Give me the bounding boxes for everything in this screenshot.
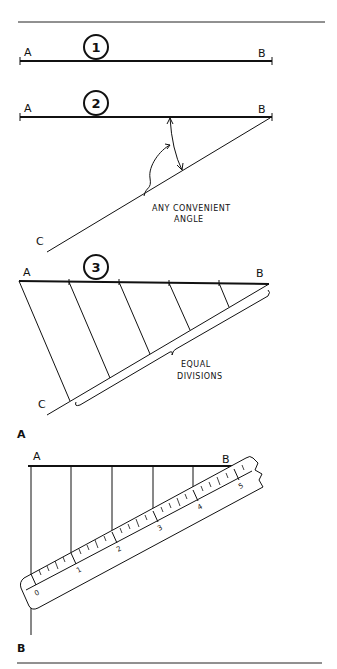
step-number: 2 [91,96,100,111]
point-label-b: B [258,47,266,60]
point-label-c: C [36,235,44,248]
annotation-line-2: ANGLE [174,215,204,224]
projection-line [219,283,229,307]
point-label-a: A [24,102,32,115]
annotation-line-2: DIVISIONS [177,372,223,381]
point-label-b: B [258,103,266,116]
point-label-a: A [24,46,32,59]
projection-line [119,282,150,354]
angle-arc [170,118,182,170]
step-2: 2 A B C ANY CONVENIENT ANGLE [20,91,272,252]
step-number: 3 [91,260,100,275]
leader-line [144,145,170,196]
projection-line [169,283,190,330]
point-label-b: B [222,453,230,466]
point-label-a: A [33,450,41,463]
projection-line [19,281,70,401]
annotation-line-1: ANY CONVENIENT [152,204,231,213]
step-3: 3 A B C EQUAL DIVISIONS [19,255,270,415]
annotation-line-1: EQUAL [181,360,211,369]
line-bc [47,284,269,415]
line-division-diagram: 1 A B 2 A B C ANY CONVENIENT ANGLE 3 A B… [0,0,337,669]
panel-label-a: A [17,428,26,441]
step-1: 1 A B [20,35,272,65]
step-number: 1 [91,40,100,55]
point-label-b: B [256,267,264,280]
scale-ruler: 0 1 2 3 4 5 [20,457,263,610]
line-bc [47,118,270,252]
scale-method: A B [20,450,263,635]
projection-line [69,282,110,378]
equal-divisions-brace [76,290,270,406]
line-ab [19,281,269,284]
point-label-a: A [23,266,31,279]
point-label-c: C [38,398,46,411]
panel-label-b: B [17,642,25,655]
